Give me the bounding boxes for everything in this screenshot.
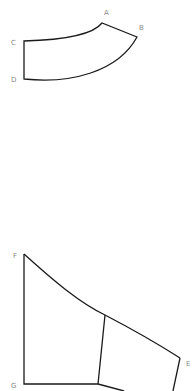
bottom-interior-divider (98, 315, 105, 384)
label-g: G (11, 382, 16, 390)
label-c: C (11, 39, 16, 47)
label-e: E (186, 360, 190, 368)
bottom-shape: F G E (11, 252, 190, 391)
bottom-left-edge (24, 254, 98, 384)
label-f: F (13, 252, 17, 260)
top-shape: A B C D (11, 9, 144, 84)
label-d: D (11, 76, 16, 84)
top-shape-outline (24, 23, 137, 80)
label-b: B (139, 24, 144, 32)
bottom-right-edge (173, 358, 180, 391)
diagram-canvas: A B C D F G E (0, 0, 196, 391)
bottom-lower-right-edge (98, 384, 124, 391)
label-a: A (104, 9, 109, 17)
